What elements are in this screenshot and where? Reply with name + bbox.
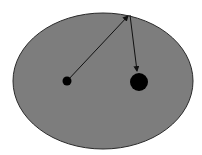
ellipse-diagram [0, 0, 202, 155]
large-focus-dot [130, 73, 148, 91]
ellipse [13, 13, 193, 149]
small-focus-dot [63, 77, 72, 86]
